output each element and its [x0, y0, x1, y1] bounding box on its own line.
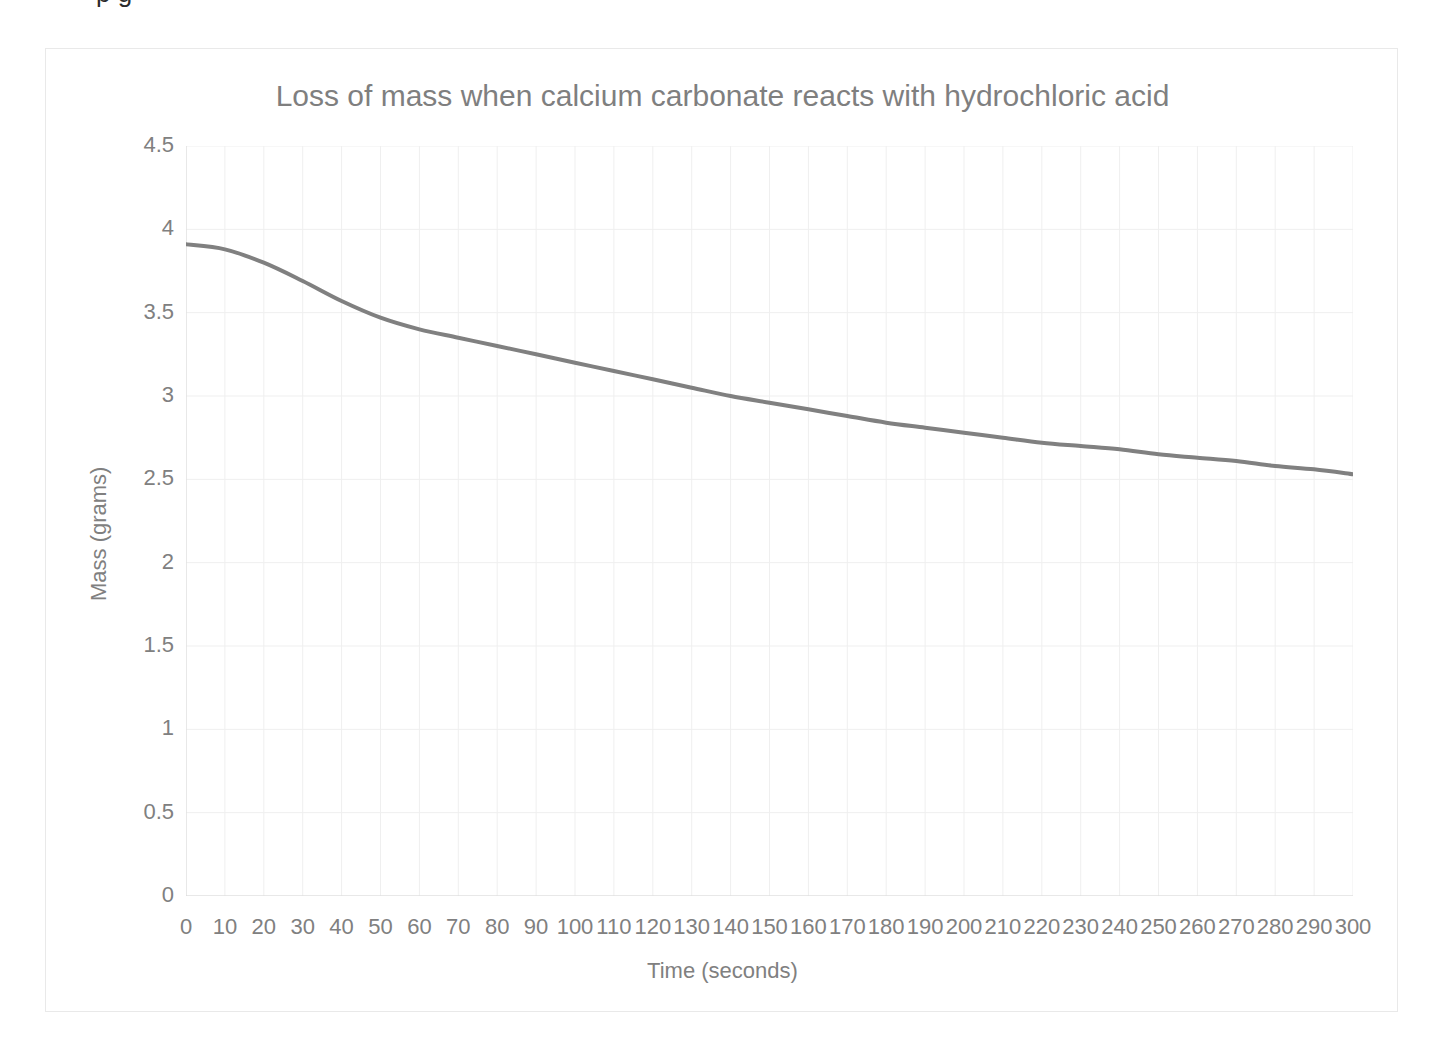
x-axis-tick-label: 250	[1140, 914, 1177, 940]
x-axis-tick-label: 70	[446, 914, 470, 940]
x-axis-tick-label: 150	[751, 914, 788, 940]
x-axis-tick-label: 100	[557, 914, 594, 940]
x-axis-tick-label: 300	[1335, 914, 1372, 940]
x-axis-tick-label: 60	[407, 914, 431, 940]
x-axis-title: Time (seconds)	[46, 958, 1399, 984]
x-axis-tick-label: 0	[180, 914, 192, 940]
x-axis-tick-label: 240	[1101, 914, 1138, 940]
x-axis-tick-label: 180	[868, 914, 905, 940]
x-axis-tick-label: 170	[829, 914, 866, 940]
x-axis-tick-label: 200	[946, 914, 983, 940]
x-axis-tick-label: 130	[673, 914, 710, 940]
x-axis-tick-label: 10	[213, 914, 237, 940]
x-axis-tick-label: 270	[1218, 914, 1255, 940]
y-axis-tick-label: 2	[74, 549, 174, 575]
x-axis-tick-label: 190	[907, 914, 944, 940]
x-axis-tick-label: 90	[524, 914, 548, 940]
x-axis-tick-label: 290	[1296, 914, 1333, 940]
y-axis-tick-label: 3	[74, 382, 174, 408]
x-axis-tick-label: 30	[290, 914, 314, 940]
x-axis-tick-label: 220	[1023, 914, 1060, 940]
chart-frame: Loss of mass when calcium carbonate reac…	[45, 48, 1398, 1012]
y-axis-tick-label: 1.5	[74, 632, 174, 658]
x-axis-tick-label: 140	[712, 914, 749, 940]
x-axis-tick-label: 80	[485, 914, 509, 940]
clipped-top-text: p g	[0, 0, 1441, 8]
y-axis-tick-label: 0	[74, 882, 174, 908]
x-axis-tick-label: 110	[596, 914, 631, 940]
x-axis-tick-label: 260	[1179, 914, 1216, 940]
x-axis-tick-label: 160	[790, 914, 827, 940]
y-axis-tick-label: 3.5	[74, 299, 174, 325]
x-axis-tick-label: 120	[634, 914, 671, 940]
x-axis-tick-label: 280	[1257, 914, 1294, 940]
y-axis-tick-label: 0.5	[74, 799, 174, 825]
plot-svg	[186, 146, 1353, 896]
x-axis-tick-label: 210	[985, 914, 1022, 940]
plot-area	[186, 146, 1353, 896]
y-axis-tick-label: 1	[74, 715, 174, 741]
y-axis-tick-label: 4	[74, 215, 174, 241]
y-axis-tick-label: 4.5	[74, 132, 174, 158]
x-axis-tick-label: 20	[252, 914, 276, 940]
y-axis-tick-label: 2.5	[74, 465, 174, 491]
chart-title: Loss of mass when calcium carbonate reac…	[46, 79, 1399, 113]
x-axis-tick-label: 50	[368, 914, 392, 940]
x-axis-tick-label: 40	[329, 914, 353, 940]
x-axis-tick-label: 230	[1062, 914, 1099, 940]
